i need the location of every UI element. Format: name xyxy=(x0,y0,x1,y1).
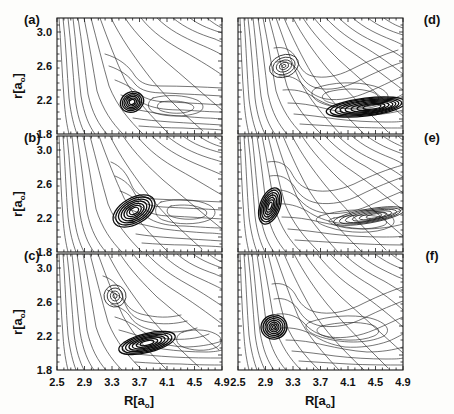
y-tick-label: 2.6 xyxy=(37,60,52,72)
plot-bg xyxy=(238,254,403,370)
x-tick-label: 4.1 xyxy=(340,376,355,388)
panel-a-y-axis-title: r[ao] xyxy=(10,73,27,99)
x-axis-title-left: R[ao] xyxy=(124,393,154,410)
x-tick-label: 4.5 xyxy=(368,376,383,388)
x-axis-title-right: R[ao] xyxy=(305,393,335,410)
panel-a-plot-area xyxy=(57,18,222,134)
panel-b-y-axis-title: r[ao] xyxy=(10,191,27,217)
panel-b-plot-area xyxy=(57,136,222,252)
x-tick-label: 2.5 xyxy=(230,376,245,388)
panel-b-label: (b) xyxy=(24,130,41,145)
x-tick-label: 2.9 xyxy=(77,376,92,388)
y-axis-title-text: r[ao] xyxy=(10,191,27,217)
y-tick-label: 2.2 xyxy=(37,212,52,224)
panel-e-label: (e) xyxy=(424,130,440,145)
x-tick-label: 2.9 xyxy=(258,376,273,388)
panel-d-plot-area xyxy=(238,18,407,134)
x-tick-label: 3.3 xyxy=(285,376,300,388)
plot-bg xyxy=(57,18,222,134)
x-tick-label: 3.7 xyxy=(132,376,147,388)
y-tick-label: 2.2 xyxy=(37,330,52,342)
x-tick-label: 4.5 xyxy=(187,376,202,388)
x-tick-label: 4.1 xyxy=(159,376,174,388)
panel-d-label: (d) xyxy=(424,12,441,27)
y-axis-title-text: r[ao] xyxy=(10,309,27,335)
panel-c-label: (c) xyxy=(24,248,40,263)
y-tick-label: 3.0 xyxy=(37,26,52,38)
panel-c-y-axis-title: r[ao] xyxy=(10,309,27,335)
y-tick-label: 2.6 xyxy=(37,296,52,308)
panel-c-plot-area xyxy=(57,254,222,370)
y-tick-label: 2.2 xyxy=(37,94,52,106)
panel-e-plot-area xyxy=(238,136,406,252)
x-tick-label: 3.3 xyxy=(104,376,119,388)
plot-bg xyxy=(238,136,403,252)
y-tick-label: 3.0 xyxy=(37,262,52,274)
panel-f-plot-area xyxy=(238,254,403,370)
panel-a-label: (a) xyxy=(24,12,40,27)
x-tick-label: 4.9 xyxy=(395,376,410,388)
contour-plot-figure: (a) 3.0 2.6 2.2 1.8 r[ao] xyxy=(0,0,454,414)
x-tick-label: 3.7 xyxy=(313,376,328,388)
y-axis-title-text: r[ao] xyxy=(10,73,27,99)
y-tick-label: 2.6 xyxy=(37,178,52,190)
y-tick-label: 3.0 xyxy=(37,144,52,156)
y-tick-label: 1.8 xyxy=(37,364,52,376)
x-tick-label: 4.9 xyxy=(214,376,229,388)
x-tick-label: 2.5 xyxy=(49,376,64,388)
panel-f-label: (f) xyxy=(426,248,439,263)
